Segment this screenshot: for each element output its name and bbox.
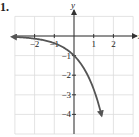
x-axis-label: x [137,31,139,41]
x-tick-label: 2 [111,39,116,49]
y-tick-label: −2 [61,70,71,80]
x-tick-label: −2 [30,39,40,49]
y-axis-label: y [70,0,75,10]
y-tick-label: −3 [61,90,71,100]
y-tick-label: −4 [61,109,71,119]
exponential-graph: xy−2−112−1−2−3−4 [0,0,139,137]
x-tick-label: 1 [91,39,96,49]
